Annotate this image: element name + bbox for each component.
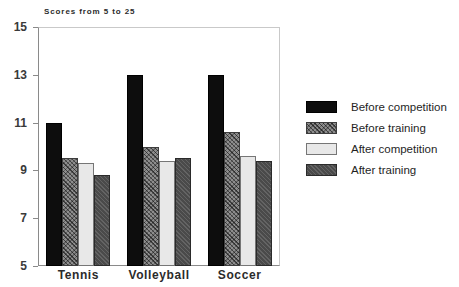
y-axis-tick-value: 7 xyxy=(20,211,33,225)
y-axis-tick-label: 5 xyxy=(20,259,33,273)
bar-after-competition xyxy=(159,161,175,266)
bar-after-competition xyxy=(240,156,256,266)
legend-label: Before competition xyxy=(351,98,447,116)
legend-item: After competition xyxy=(306,140,456,161)
bar-after-training xyxy=(256,161,272,266)
y-axis-tick-label: 15 xyxy=(14,20,33,34)
y-axis-tick-mark xyxy=(33,266,38,267)
x-axis-tick-label: Tennis xyxy=(58,268,99,282)
bar-before-training xyxy=(143,147,159,267)
bar-before-training xyxy=(224,132,240,266)
legend-swatch-solid-black xyxy=(306,101,337,113)
chart-legend: Before competitionBefore trainingAfter c… xyxy=(306,98,456,182)
y-axis-tick-label: 11 xyxy=(14,116,33,130)
legend-swatch-dark-gray xyxy=(306,164,337,176)
x-axis-tick-label: Volleyball xyxy=(128,268,189,282)
legend-item: Before competition xyxy=(306,98,456,119)
bar-chart-figure: Scores from 5 to 25 151311975 TennisVoll… xyxy=(0,0,459,287)
y-axis-tick-value: 5 xyxy=(20,259,33,273)
bar-before-training xyxy=(62,158,78,266)
bar-after-training xyxy=(94,175,110,266)
y-axis-tick-value: 15 xyxy=(14,20,33,34)
chart-title: Scores from 5 to 25 xyxy=(44,7,135,16)
legend-label: After training xyxy=(351,161,416,179)
y-axis-tick-label: 7 xyxy=(20,211,33,225)
y-axis-tick-value: 9 xyxy=(20,163,33,177)
y-axis-tick-value: 11 xyxy=(14,116,33,130)
legend-swatch-light-gray xyxy=(306,143,337,155)
bar-after-competition xyxy=(78,163,94,266)
legend-item: Before training xyxy=(306,119,456,140)
bar-before-competition xyxy=(208,75,224,266)
bar-before-competition xyxy=(46,123,62,266)
bar-before-competition xyxy=(127,75,143,266)
y-axis: 151311975 xyxy=(0,0,33,287)
x-axis-tick-label: Soccer xyxy=(218,268,262,282)
y-axis-tick-label: 13 xyxy=(14,68,33,82)
y-axis-tick-value: 13 xyxy=(14,68,33,82)
bars-layer xyxy=(38,27,280,266)
bar-after-training xyxy=(175,158,191,266)
legend-label: Before training xyxy=(351,119,426,137)
legend-label: After competition xyxy=(351,140,437,158)
legend-swatch-crosshatch-gray xyxy=(306,122,337,134)
legend-item: After training xyxy=(306,161,456,182)
y-axis-tick-label: 9 xyxy=(20,163,33,177)
